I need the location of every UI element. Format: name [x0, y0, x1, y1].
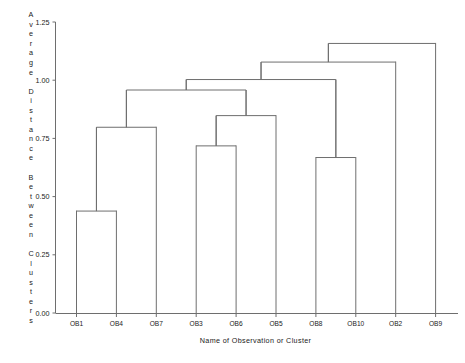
- axes-group: [56, 22, 459, 314]
- y-axis-title-letter: r: [30, 39, 33, 48]
- y-axis-title-letter: e: [29, 297, 33, 306]
- y-axis-title-letter: c: [29, 144, 33, 153]
- y-axis-title-letter: g: [29, 58, 33, 67]
- y-axis-title-letter: e: [29, 29, 33, 38]
- x-tick-label-ob7: OB7: [150, 320, 164, 327]
- leaf-stems: [77, 43, 436, 313]
- merge-link-m8: [261, 62, 396, 79]
- y-axis-title-letter: B: [29, 173, 34, 182]
- x-tick-label-ob4: OB4: [110, 320, 124, 327]
- y-tick-label: 1.00: [36, 76, 50, 85]
- y-axis-title-letter: r: [30, 306, 33, 315]
- merge-link-m5: [216, 116, 276, 146]
- x-tick-label-ob2: OB2: [389, 320, 403, 327]
- y-axis-title-letter: e: [29, 211, 33, 220]
- y-axis-title-letter: a: [29, 48, 33, 57]
- y-axis-title: AverageDistanceBetweenClusters: [27, 10, 34, 325]
- y-axis-title-letter: t: [30, 115, 32, 124]
- y-axis-title-letter: l: [30, 259, 32, 268]
- x-axis-title: Name of Observation or Cluster: [200, 336, 312, 345]
- merge-link-m4: [96, 127, 156, 211]
- y-tick-label: 0.00: [36, 309, 50, 318]
- y-axis-title-letter: v: [29, 20, 33, 29]
- dendrogram-canvas: 0.000.250.500.751.001.25 AverageDistance…: [0, 0, 465, 363]
- dendrogram-links: [77, 43, 436, 211]
- y-axis-title-letter: s: [29, 316, 33, 325]
- y-tick-label: 0.25: [36, 250, 50, 259]
- y-axis-title-letter: w: [27, 201, 34, 210]
- x-tick-label-ob6: OB6: [229, 320, 243, 327]
- y-axis-title-letter: D: [28, 87, 33, 96]
- y-axis-title-letter: n: [29, 134, 33, 143]
- x-tick-label-ob9: OB9: [429, 320, 443, 327]
- dendrogram-plot: 0.000.250.500.751.001.25 AverageDistance…: [0, 0, 465, 363]
- y-tick-label: 0.75: [36, 134, 50, 143]
- y-axis-ticks: 0.000.250.500.751.001.25: [36, 18, 56, 318]
- x-tick-label-ob10: OB10: [347, 320, 364, 327]
- y-axis-title-letter: u: [29, 268, 33, 277]
- y-axis-title-letter: s: [29, 106, 33, 115]
- merge-link-m6: [126, 90, 246, 127]
- y-axis-title-letter: a: [29, 125, 33, 134]
- x-axis-title-text: Name of Observation or Cluster: [200, 336, 312, 345]
- y-tick-label: 1.25: [36, 18, 50, 27]
- y-axis-title-letter: e: [29, 182, 33, 191]
- y-axis-title-letter: s: [29, 278, 33, 287]
- y-axis-title-letter: t: [30, 192, 32, 201]
- y-axis-title-letter: n: [29, 230, 33, 239]
- y-axis-title-letter: A: [29, 10, 34, 19]
- x-axis-ticks: OB1OB4OB7OB3OB6OB5OB8OB10OB2OB9: [70, 313, 443, 327]
- x-tick-label-ob3: OB3: [190, 320, 204, 327]
- x-tick-label-ob1: OB1: [70, 320, 84, 327]
- x-tick-label-ob5: OB5: [269, 320, 283, 327]
- y-axis-title-letter: C: [28, 249, 33, 258]
- y-axis-title-letter: e: [29, 153, 33, 162]
- merge-link-m9: [328, 43, 435, 62]
- y-axis-title-letter: i: [30, 96, 32, 105]
- x-tick-label-ob8: OB8: [309, 320, 323, 327]
- y-axis-title-letter: e: [29, 220, 33, 229]
- y-axis-title-letter: e: [29, 68, 33, 77]
- y-tick-label: 0.50: [36, 192, 50, 201]
- y-axis-title-letter: t: [30, 287, 32, 296]
